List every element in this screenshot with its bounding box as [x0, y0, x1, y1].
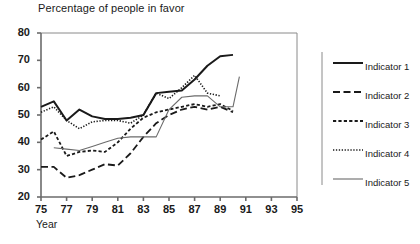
legend-item-3[interactable]: Indicator 3 — [365, 119, 409, 130]
legend-item-4[interactable]: Indicator 4 — [365, 148, 409, 159]
y-tick-label: 30 — [8, 163, 30, 175]
x-tick-label: 91 — [234, 203, 258, 215]
y-tick-label: 80 — [8, 26, 30, 38]
series-lines — [41, 55, 239, 178]
x-tick-label: 79 — [80, 203, 104, 215]
series-line-5 — [54, 77, 240, 151]
y-tick-label: 70 — [8, 53, 30, 65]
series-line-3 — [41, 104, 233, 156]
legend-swatches — [322, 52, 363, 185]
y-tick-label: 60 — [8, 81, 30, 93]
x-tick-label: 83 — [131, 203, 155, 215]
x-tick-label: 93 — [259, 203, 283, 215]
x-tick-label: 89 — [208, 203, 232, 215]
x-tick-label: 77 — [55, 203, 79, 215]
chart-container: Percentage of people in favor Year 20304… — [0, 0, 420, 244]
x-tick-label: 95 — [285, 203, 309, 215]
legend-item-1[interactable]: Indicator 1 — [365, 61, 409, 72]
x-tick-label: 81 — [106, 203, 130, 215]
legend-item-2[interactable]: Indicator 2 — [365, 90, 409, 101]
series-line-1 — [41, 55, 233, 121]
x-tick-label: 85 — [157, 203, 181, 215]
x-tick-label: 87 — [183, 203, 207, 215]
y-tick-label: 20 — [8, 190, 30, 202]
y-tick-label: 40 — [8, 135, 30, 147]
x-tick-label: 75 — [29, 203, 53, 215]
legend-item-5[interactable]: Indicator 5 — [365, 177, 409, 188]
y-tick-label: 50 — [8, 108, 30, 120]
